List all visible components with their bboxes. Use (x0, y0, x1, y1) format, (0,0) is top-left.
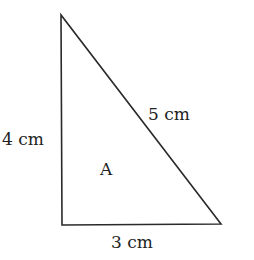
triangle-diagram: 4 cm 5 cm A 3 cm (0, 0, 254, 260)
hypotenuse-label: 5 cm (148, 106, 190, 123)
bottom-side-label: 3 cm (111, 234, 153, 251)
region-label: A (100, 161, 112, 178)
left-side-label: 4 cm (2, 131, 44, 148)
